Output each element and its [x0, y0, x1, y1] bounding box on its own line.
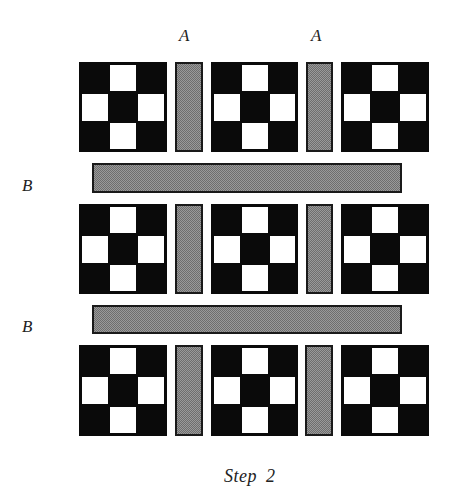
white-square	[344, 236, 370, 263]
white-square	[214, 94, 240, 121]
white-square	[242, 407, 268, 433]
quilt-block	[211, 204, 298, 294]
white-square	[242, 207, 268, 233]
quilt-block	[341, 62, 429, 152]
white-square	[270, 94, 295, 121]
white-square	[110, 348, 136, 374]
white-square	[372, 123, 398, 149]
white-square	[110, 65, 136, 91]
white-square	[400, 236, 426, 263]
quilt-block	[341, 204, 429, 294]
white-square	[344, 94, 370, 121]
white-square	[242, 123, 268, 149]
quilt-block	[211, 62, 298, 152]
white-square	[214, 236, 240, 263]
white-square	[214, 377, 240, 404]
white-square	[372, 407, 398, 433]
white-square	[82, 94, 108, 121]
sashing-label-b-1: B	[22, 177, 32, 194]
white-square	[110, 123, 136, 149]
quilt-block	[341, 345, 429, 436]
quilt-block	[79, 345, 167, 436]
sashing-strip-b	[92, 163, 402, 193]
sashing-strip-a	[175, 345, 203, 436]
white-square	[110, 407, 136, 433]
sashing-strip-a	[175, 204, 203, 294]
step-caption: Step 2	[224, 467, 276, 485]
sashing-label-a-2: A	[311, 27, 321, 44]
quilt-block	[79, 204, 167, 294]
white-square	[242, 348, 268, 374]
white-square	[372, 207, 398, 233]
sashing-strip-a	[175, 62, 203, 152]
white-square	[242, 65, 268, 91]
white-square	[270, 236, 295, 263]
white-square	[344, 377, 370, 404]
quilt-block	[79, 62, 167, 152]
sashing-strip-a	[306, 204, 333, 294]
white-square	[400, 377, 426, 404]
sashing-label-b-2: B	[22, 318, 32, 335]
white-square	[82, 377, 108, 404]
white-square	[372, 348, 398, 374]
white-square	[372, 65, 398, 91]
white-square	[138, 236, 164, 263]
white-square	[242, 265, 268, 291]
sashing-strip-a	[305, 345, 333, 436]
quilt-block	[211, 345, 298, 436]
sashing-label-a-1: A	[179, 27, 189, 44]
sashing-strip-a	[306, 62, 333, 152]
white-square	[82, 236, 108, 263]
white-square	[110, 207, 136, 233]
white-square	[372, 265, 398, 291]
white-square	[138, 377, 164, 404]
white-square	[110, 265, 136, 291]
white-square	[138, 94, 164, 121]
white-square	[400, 94, 426, 121]
sashing-strip-b	[92, 305, 402, 334]
white-square	[270, 377, 295, 404]
